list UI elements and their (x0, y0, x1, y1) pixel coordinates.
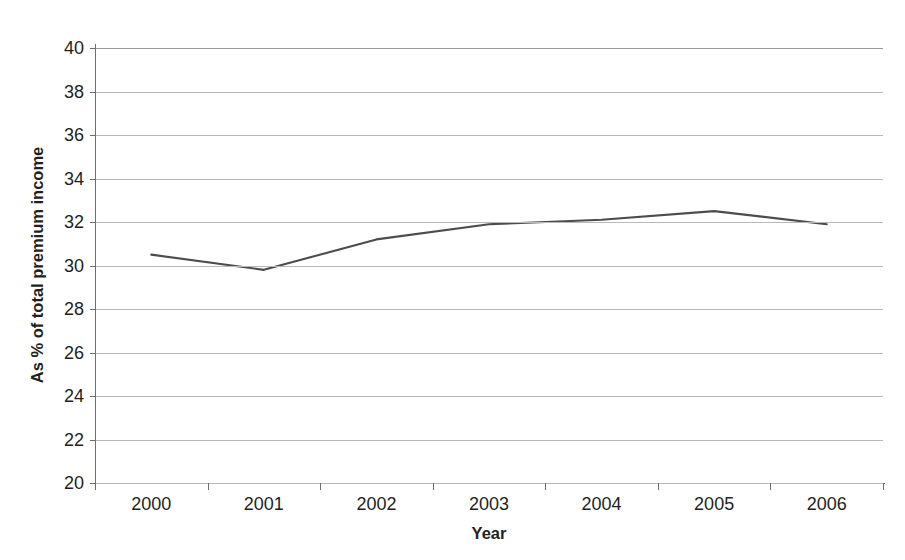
y-axis-tick-mark (90, 48, 96, 49)
x-axis-tick-label: 2001 (209, 493, 319, 515)
x-axis-tick-mark (770, 483, 771, 490)
x-axis-tick-label: 2004 (547, 493, 657, 515)
y-axis-tick-mark (90, 353, 96, 354)
gridline (95, 440, 883, 441)
y-axis-tick-mark (90, 135, 96, 136)
x-axis-tick-mark (883, 483, 884, 490)
x-axis-tick-label: 2000 (96, 493, 206, 515)
y-axis-tick-mark (90, 396, 96, 397)
plot-area (95, 48, 883, 483)
x-axis-tick-mark (208, 483, 209, 490)
y-axis-tick-label: 28 (38, 300, 84, 318)
x-axis-tick-mark (545, 483, 546, 490)
y-axis-tick-label: 26 (38, 344, 84, 362)
y-axis-tick-mark (90, 179, 96, 180)
gridline (95, 48, 883, 49)
gridline (95, 222, 883, 223)
y-axis-tick-label: 40 (38, 39, 84, 57)
y-axis-tick-label: 22 (38, 431, 84, 449)
y-axis-tick-label: 30 (38, 257, 84, 275)
x-axis-tick-mark (320, 483, 321, 490)
y-axis-tick-mark (90, 266, 96, 267)
y-axis-tick-labels: 4038363432302826242220 (38, 0, 84, 560)
x-axis-title: Year (95, 524, 883, 543)
gridline (95, 266, 883, 267)
gridline (95, 92, 883, 93)
y-axis-tick-mark (90, 440, 96, 441)
y-axis-tick-label: 38 (38, 83, 84, 101)
x-axis-tick-mark (433, 483, 434, 490)
x-axis-tick-label: 2003 (434, 493, 544, 515)
gridline (95, 396, 883, 397)
x-axis-tick-label: 2005 (659, 493, 769, 515)
y-axis-tick-label: 32 (38, 213, 84, 231)
gridline (95, 483, 883, 484)
y-axis-tick-mark (90, 309, 96, 310)
x-axis-tick-label: 2006 (772, 493, 882, 515)
gridline (95, 135, 883, 136)
y-axis-tick-label: 36 (38, 126, 84, 144)
x-axis-tick-label: 2002 (321, 493, 431, 515)
gridline (95, 309, 883, 310)
x-axis-tick-mark (658, 483, 659, 490)
gridline (95, 179, 883, 180)
y-axis-tick-label: 24 (38, 387, 84, 405)
y-axis-tick-mark (90, 92, 96, 93)
x-axis-tick-mark (95, 483, 96, 490)
y-axis-tick-label: 34 (38, 170, 84, 188)
line-chart: As % of total premium income 40383634323… (0, 0, 905, 560)
gridline (95, 353, 883, 354)
y-axis-tick-label: 20 (38, 474, 84, 492)
y-axis-tick-mark (90, 222, 96, 223)
x-axis-tick-labels: 2000200120022003200420052006 (95, 493, 883, 519)
